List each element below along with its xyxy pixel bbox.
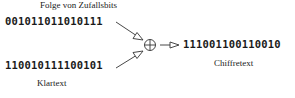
arrow-random-to-xor (116, 22, 143, 40)
xor-icon (145, 40, 156, 51)
arrow-xor-to-ciphertext (160, 42, 179, 48)
arrow-plaintext-to-xor (116, 51, 143, 68)
diagram-graphics (0, 0, 295, 98)
